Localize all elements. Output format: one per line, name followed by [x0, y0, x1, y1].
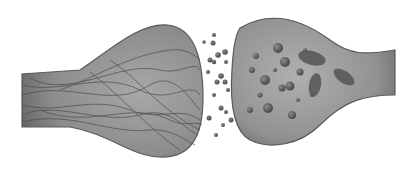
presynaptic-terminal: [22, 25, 203, 157]
synapse-illustration: [0, 0, 419, 176]
synaptic-vesicles: [202, 33, 233, 137]
postsynaptic-terminal: [231, 18, 395, 145]
